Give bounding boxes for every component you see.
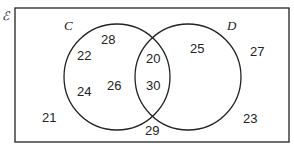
element-30: 30 — [146, 78, 160, 93]
set-c-label: C — [64, 18, 73, 33]
element-28: 28 — [101, 32, 115, 47]
element-23: 23 — [243, 111, 257, 126]
element-22: 22 — [77, 48, 91, 63]
set-c-circle — [64, 24, 170, 130]
element-24: 24 — [77, 84, 91, 99]
universal-set-symbol: ℰ — [2, 9, 11, 23]
element-29: 29 — [145, 123, 159, 138]
element-27: 27 — [250, 44, 264, 59]
set-d-label: D — [226, 18, 237, 33]
element-26: 26 — [107, 78, 121, 93]
venn-diagram: ℰ C D 28 22 24 26 20 30 25 27 21 23 29 — [0, 0, 294, 149]
element-25: 25 — [190, 41, 204, 56]
element-21: 21 — [42, 110, 56, 125]
set-d-circle — [135, 24, 241, 130]
element-20: 20 — [146, 51, 160, 66]
